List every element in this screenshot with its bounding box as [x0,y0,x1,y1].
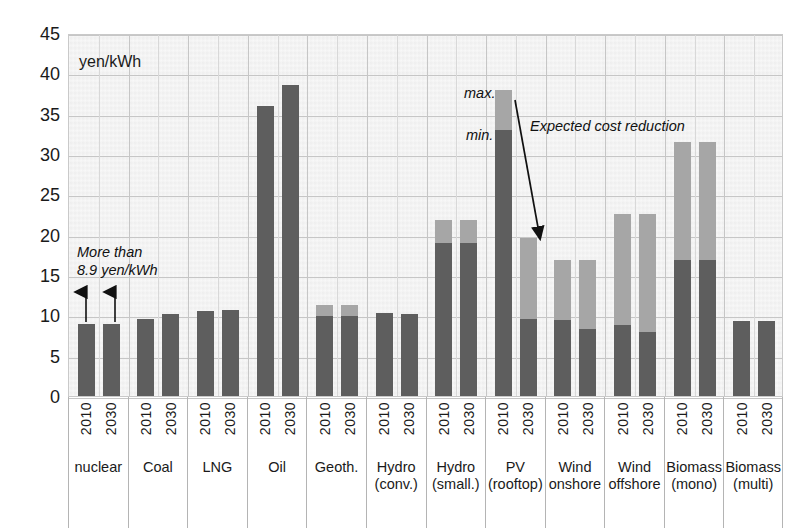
bar-segment-min [733,321,750,396]
bar-segment-max [435,220,452,243]
bar-segment-max [614,214,631,325]
gridline-vertical-minor [695,35,696,396]
y-tick-label: 0 [16,388,60,406]
x-category-label-line1: Coal [143,459,173,475]
gridline-vertical [427,35,428,396]
x-category-label-line1: Hydro [436,459,475,475]
chart-root: 454035302520151050 yen/kWh 20102030nucle… [0,0,807,528]
x-year-label: 2010 [735,402,749,435]
annotation-expected-cost-reduction: Expected cost reduction [530,117,685,135]
bar [401,314,418,396]
x-year-label: 2030 [223,402,237,435]
annotation-more-than: More than 8.9 yen/kWh [77,243,158,279]
x-year-label: 2010 [377,402,391,435]
x-category-label: Geoth. [307,459,366,476]
x-category-cell: 20102030Coal [128,397,188,528]
bar [376,313,393,396]
bar-segment-min [758,321,775,396]
x-category-label-line1: PV [506,459,525,475]
bar [579,260,596,396]
x-year-label: 2010 [675,402,689,435]
bar-segment-max [674,142,691,260]
gridline-horizontal [69,75,782,76]
bar [674,142,691,396]
gridline-vertical-minor [99,35,100,396]
gridline-vertical [546,35,547,396]
x-year-label: 2030 [462,402,476,435]
x-category-label: Windonshore [546,459,605,493]
plot-area: yen/kWh [68,34,783,397]
x-category-label: Windoffshore [605,459,664,493]
annotation-max-label: max. [464,84,495,102]
gridline-vertical-minor [516,35,517,396]
x-year-label: 2010 [556,402,570,435]
x-category-label: Hydro(conv.) [367,459,426,493]
bar-segment-min [197,311,214,396]
bar [460,220,477,396]
gridline-vertical-minor [456,35,457,396]
gridline-vertical [307,35,308,396]
x-category-cell: 20102030Biomass(mono) [664,397,724,528]
x-category-cell: 20102030Geoth. [306,397,366,528]
y-tick-label: 35 [16,106,60,124]
bar [758,321,775,396]
bar [699,142,716,396]
gridline-vertical-minor [635,35,636,396]
x-category-cell: 20102030Biomass(multi) [723,397,783,528]
gridline-vertical [188,35,189,396]
x-category-label-line2: (mono) [665,476,724,493]
x-category-label: Biomass(multi) [724,459,782,493]
x-category-label-line2: (multi) [724,476,782,493]
bar [520,238,537,396]
x-year-label: 2010 [496,402,510,435]
bar [257,106,274,396]
y-tick-label: 15 [16,267,60,285]
y-axis: 454035302520151050 [8,0,60,528]
gridline-vertical-minor [337,35,338,396]
bar-segment-min [162,314,179,396]
x-year-label: 2010 [616,402,630,435]
bar-segment-min [520,319,537,396]
x-category-label-line2: (rooftop) [486,476,545,493]
x-year-label: 2030 [343,402,357,435]
x-category-label-line2: onshore [546,476,605,493]
bar [614,214,631,396]
bar [495,90,512,396]
x-category-cell: 20102030PV(rooftop) [485,397,545,528]
annotation-more-than-line2: 8.9 yen/kWh [77,262,158,278]
bar-segment-min [460,243,477,396]
bar [639,214,656,396]
bar-segment-min [674,260,691,396]
gridline-vertical [248,35,249,396]
bar [162,314,179,396]
gridline-vertical [605,35,606,396]
bar-segment-min [282,85,299,396]
bar [733,321,750,396]
x-year-label: 2030 [641,402,655,435]
unit-label: yen/kWh [79,53,141,71]
bar [78,324,95,396]
y-tick-label: 25 [16,186,60,204]
bar [103,324,120,396]
y-tick-label: 5 [16,348,60,366]
bar-segment-min [103,324,120,396]
x-category-label-line1: nuclear [75,459,123,475]
bar-segment-max [639,214,656,333]
x-year-label: 2030 [581,402,595,435]
x-category-cell: 20102030nuclear [68,397,128,528]
bar-segment-min [699,260,716,396]
bar [341,305,358,396]
x-category-label-line1: Biomass [725,459,781,475]
bar-segment-min [78,324,95,396]
x-category-label: PV(rooftop) [486,459,545,493]
x-year-label: 2030 [283,402,297,435]
bar-segment-min [222,310,239,396]
bar-segment-min [316,316,333,396]
bar-segment-min [554,320,571,396]
x-category-cell: 20102030Windonshore [545,397,605,528]
x-year-label: 2010 [198,402,212,435]
bar-segment-min [495,130,512,396]
bar-segment-max [460,220,477,243]
gridline-vertical-minor [754,35,755,396]
bar-segment-min [435,243,452,396]
